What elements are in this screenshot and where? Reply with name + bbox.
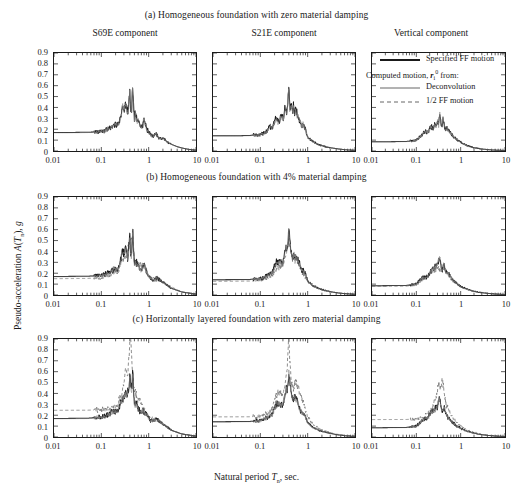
panel-plot-area xyxy=(213,197,355,295)
x-tick-label: 0.01 xyxy=(197,155,227,165)
x-tick-label: 0.1 xyxy=(86,155,116,165)
x-tick-label: 0.01 xyxy=(356,155,386,165)
y-tick-label: 0.7 xyxy=(22,355,48,365)
panel-b-s69e xyxy=(53,196,197,296)
x-tick-label: 0.1 xyxy=(245,441,275,451)
y-tick-label: 0.8 xyxy=(22,344,48,354)
panel-plot-area xyxy=(213,53,355,151)
x-tick-label: 0.1 xyxy=(86,299,116,309)
y-tick-label: 0.7 xyxy=(22,69,48,79)
y-tick-label: 0.2 xyxy=(22,411,48,421)
y-tick-label: 0.4 xyxy=(22,389,48,399)
y-tick-label: 0.4 xyxy=(22,247,48,257)
y-tick-label: 0.6 xyxy=(22,80,48,90)
x-tick-label: 0.01 xyxy=(197,299,227,309)
panel-plot-area xyxy=(372,197,505,295)
y-tick-label: 0.2 xyxy=(22,125,48,135)
y-tick-label: 0.4 xyxy=(22,103,48,113)
x-tick-label: 0.01 xyxy=(38,299,68,309)
y-tick-label: 0.5 xyxy=(22,91,48,101)
panel-b-s21e xyxy=(212,196,356,296)
panel-plot-area xyxy=(54,53,196,151)
legend-label-half-ff: 1/2 FF motion xyxy=(426,97,474,105)
y-tick-label: 0.5 xyxy=(22,377,48,387)
y-tick-label: 0.6 xyxy=(22,366,48,376)
x-tick-label: 0.01 xyxy=(38,155,68,165)
y-tick-label: 0.8 xyxy=(22,58,48,68)
y-tick-label: 0.7 xyxy=(22,213,48,223)
y-tick-label: 0.3 xyxy=(22,400,48,410)
x-tick-label: 1 xyxy=(134,155,164,165)
x-tick-label: 0.1 xyxy=(245,155,275,165)
legend-label-deconvolution: Deconvolution xyxy=(426,83,475,91)
panel-plot-area xyxy=(372,339,505,437)
x-tick-label: 0.1 xyxy=(401,299,431,309)
y-tick-label: 0.3 xyxy=(22,258,48,268)
col-title-vertical: Vertical component xyxy=(356,28,506,38)
panel-c-s21e xyxy=(212,338,356,438)
x-tick-label: 1 xyxy=(446,299,476,309)
row-title-a: (a) Homogeneous foundation with zero mat… xyxy=(0,10,513,20)
x-tick-label: 1 xyxy=(446,441,476,451)
y-tick-label: 0.9 xyxy=(22,333,48,343)
x-axis-label: Natural period Tn, sec. xyxy=(0,472,513,484)
legend-label-specified: Specified FF motion xyxy=(426,55,494,63)
y-tick-label: 0.6 xyxy=(22,224,48,234)
x-tick-label: 1 xyxy=(293,441,323,451)
x-tick-label: 1 xyxy=(293,299,323,309)
y-tick-label: 0.5 xyxy=(22,235,48,245)
x-tick-label: 10 xyxy=(491,299,513,309)
panel-plot-area xyxy=(54,339,196,437)
x-tick-label: 0.01 xyxy=(38,441,68,451)
legend-title-pre: Computed motion, xyxy=(366,71,430,80)
legend-swatch-thick-solid xyxy=(378,55,422,65)
x-tick-label: 1 xyxy=(293,155,323,165)
panel-b-vertical xyxy=(371,196,506,296)
x-tick-label: 0.1 xyxy=(401,441,431,451)
x-tick-label: 1 xyxy=(134,299,164,309)
y-tick-label: 0.9 xyxy=(22,191,48,201)
panel-a-s69e xyxy=(53,52,197,152)
legend-title-text: Computed motion, ri0 from: xyxy=(366,69,459,81)
legend-swatch-thin-solid xyxy=(378,83,422,93)
y-tick-label: 0.1 xyxy=(22,422,48,432)
legend-title-sub-i: i xyxy=(434,75,436,81)
row-title-c: (c) Horizontally layered foundation with… xyxy=(0,314,513,324)
y-tick-label: 0.1 xyxy=(22,280,48,290)
panel-plot-area xyxy=(213,339,355,437)
x-tick-label: 0.1 xyxy=(86,441,116,451)
col-title-s21e: S21E component xyxy=(212,28,356,38)
panel-c-s69e xyxy=(53,338,197,438)
panel-c-vertical xyxy=(371,338,506,438)
x-tick-label: 10 xyxy=(491,155,513,165)
figure-root: (a) Homogeneous foundation with zero mat… xyxy=(0,0,513,497)
x-tick-label: 0.01 xyxy=(197,441,227,451)
col-title-s69e: S69E component xyxy=(53,28,197,38)
y-tick-label: 0.1 xyxy=(22,136,48,146)
y-tick-label: 0.3 xyxy=(22,114,48,124)
panel-plot-area xyxy=(54,197,196,295)
row-title-b: (b) Homogeneous foundation with 4% mater… xyxy=(0,172,513,182)
x-tick-label: 1 xyxy=(134,441,164,451)
x-axis-post: , sec. xyxy=(280,472,299,482)
legend-title-post: from: xyxy=(438,71,459,80)
y-tick-label: 0.8 xyxy=(22,202,48,212)
x-tick-label: 10 xyxy=(491,441,513,451)
y-tick-label: 0.9 xyxy=(22,47,48,57)
x-axis-label-text: Natural period xyxy=(214,472,272,482)
x-tick-label: 0.1 xyxy=(401,155,431,165)
x-tick-label: 0.01 xyxy=(356,299,386,309)
y-tick-label: 0.2 xyxy=(22,269,48,279)
panel-a-s21e xyxy=(212,52,356,152)
legend-swatch-dashed xyxy=(378,97,422,107)
x-tick-label: 0.1 xyxy=(245,299,275,309)
x-tick-label: 0.01 xyxy=(356,441,386,451)
x-tick-label: 1 xyxy=(446,155,476,165)
